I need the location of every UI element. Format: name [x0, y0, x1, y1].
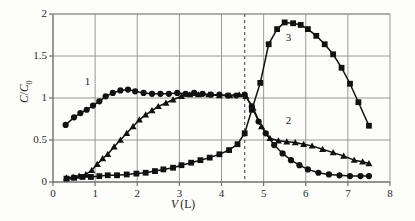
y-tick-label: 2	[17, 7, 47, 19]
x-axis-title: V (L)	[171, 198, 195, 210]
x-tick-label: 5	[254, 187, 274, 199]
chart-container: 01234567800.511.52 V (L) C/C0 123	[0, 0, 415, 221]
x-tick-label: 8	[380, 187, 400, 199]
y-axis-title: C/C0	[18, 62, 33, 122]
y-tick-label: 0	[17, 175, 47, 187]
series-3	[64, 20, 372, 182]
x-tick-label: 4	[212, 187, 232, 199]
x-tick-label: 6	[296, 187, 316, 199]
x-tick-label: 7	[338, 187, 358, 199]
series-2	[63, 91, 372, 180]
y-tick-label: 1.5	[17, 49, 47, 61]
x-tick-label: 1	[85, 187, 105, 199]
y-tick-label: 0.5	[17, 133, 47, 145]
series-annotation-1: 1	[85, 75, 91, 87]
series-annotation-3: 3	[286, 31, 292, 43]
x-tick-label: 0	[43, 187, 63, 199]
series-annotation-2: 2	[286, 114, 292, 126]
x-tick-label: 2	[127, 187, 147, 199]
series-1	[63, 87, 373, 180]
data-series-layer	[63, 20, 373, 182]
